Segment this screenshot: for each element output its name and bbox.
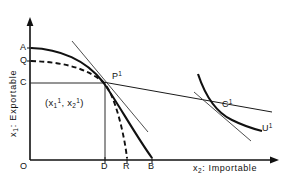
y-axis-label-sep: : xyxy=(8,124,18,127)
x-axis-label-sep: : xyxy=(202,163,205,173)
axes-group xyxy=(27,17,279,163)
point-label-p1: P1 xyxy=(112,70,122,81)
point-label-c1-base: C xyxy=(222,99,229,109)
y-tick-label-C: C xyxy=(20,77,27,87)
origin-label: O xyxy=(20,161,27,171)
point-label-c1-sup: 1 xyxy=(229,98,233,105)
curve-label-u1-sup: 1 xyxy=(269,122,273,129)
point-label-p1-sup: 1 xyxy=(118,70,122,77)
y-axis-label-sub: 1 xyxy=(12,127,19,131)
diagram-canvas xyxy=(0,0,283,180)
economics-diagram: x1: Exportable x2: Importable O A Q C D … xyxy=(0,0,283,180)
x-axis-label: x2: Importable xyxy=(193,163,257,174)
y-axis-arrowhead xyxy=(27,17,34,26)
coordinate-annotation: (x11, x21) xyxy=(45,97,84,109)
price-line-trade xyxy=(103,82,272,112)
curve-label-u1-base: U xyxy=(262,123,269,133)
x-axis-label-name: Importable xyxy=(209,163,258,173)
x-axis-arrowhead xyxy=(270,157,279,164)
price-line-production-tangent xyxy=(72,41,148,132)
point-label-c1: C1 xyxy=(222,98,233,109)
y-axis-label-var: x xyxy=(8,132,18,137)
y-tick-label-A: A xyxy=(20,42,26,52)
coordinate-comma: , xyxy=(61,97,64,108)
x-tick-label-D: D xyxy=(101,161,108,171)
y-tick-label-Q: Q xyxy=(20,55,27,65)
curve-label-u1: U1 xyxy=(262,122,273,133)
x-tick-label-R: R xyxy=(123,161,130,171)
y-axis-label: x1: Exportable xyxy=(8,70,19,137)
coordinate-close-paren: ) xyxy=(80,97,83,108)
reference-box-group xyxy=(30,83,105,160)
y-axis-label-name: Exportable xyxy=(8,70,18,121)
x-tick-label-B: B xyxy=(148,161,154,171)
